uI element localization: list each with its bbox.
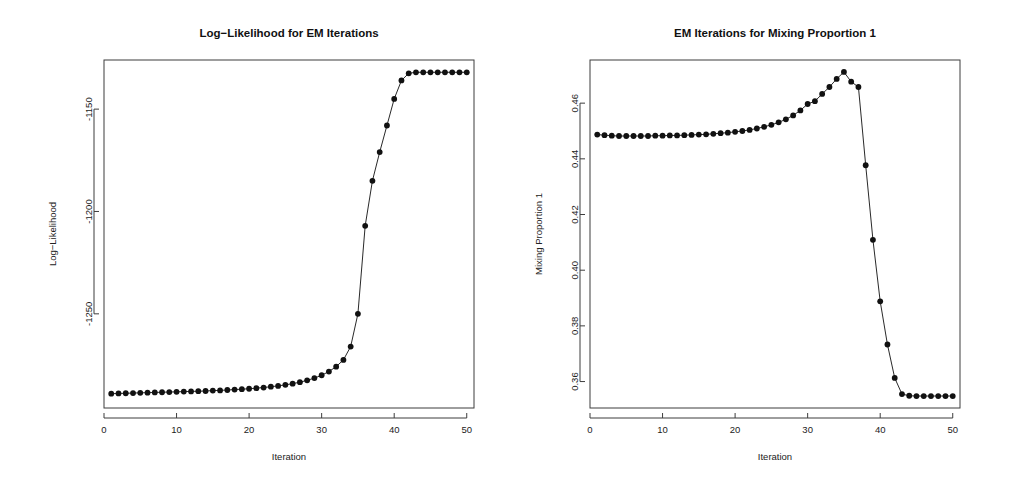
x-tick-label: 40 (389, 424, 400, 435)
y-tick-label: -1150 (83, 97, 94, 121)
data-point (362, 223, 368, 229)
y-tick-label: 0.36 (569, 372, 580, 391)
data-point (689, 132, 695, 138)
x-tick-label: 50 (947, 424, 958, 435)
series-line (111, 72, 467, 393)
data-point (645, 133, 651, 139)
data-point (428, 69, 434, 75)
x-tick-label: 40 (875, 424, 886, 435)
data-point (297, 379, 303, 385)
data-point (108, 391, 114, 397)
data-point (123, 390, 129, 396)
data-point (667, 133, 673, 139)
data-point (739, 128, 745, 134)
chart-panel-log-likelihood: Log−Likelihood for EM Iterations01020304… (0, 0, 506, 484)
plot-title: Log−Likelihood for EM Iterations (199, 27, 378, 39)
data-point (435, 69, 441, 75)
data-point (812, 98, 818, 104)
data-point (681, 132, 687, 138)
data-point (217, 388, 223, 394)
data-point (399, 78, 405, 84)
data-point (195, 388, 201, 394)
data-point (870, 237, 876, 243)
series-line (597, 72, 953, 396)
data-point (718, 130, 724, 136)
data-point (638, 133, 644, 139)
data-point (137, 390, 143, 396)
data-point (166, 389, 172, 395)
data-point (696, 132, 702, 138)
data-point (370, 178, 376, 184)
data-point (413, 69, 419, 75)
data-point (725, 130, 731, 136)
y-tick-label: 0.40 (569, 261, 580, 280)
data-point (304, 377, 310, 383)
data-point (145, 390, 151, 396)
data-point (333, 364, 339, 370)
data-point (406, 70, 412, 76)
data-point (754, 126, 760, 132)
data-point (594, 132, 600, 138)
x-tick-label: 20 (244, 424, 255, 435)
x-tick-label: 30 (316, 424, 327, 435)
data-point (935, 393, 941, 399)
y-tick-label: 0.46 (569, 94, 580, 113)
x-tick-label: 10 (657, 424, 668, 435)
data-point (921, 393, 927, 399)
data-point (906, 393, 912, 399)
data-point (311, 375, 317, 381)
data-point (863, 162, 869, 168)
data-point (188, 389, 194, 395)
data-point (631, 133, 637, 139)
data-point (768, 122, 774, 128)
data-point (239, 386, 245, 392)
data-point (210, 388, 216, 394)
data-point (856, 84, 862, 90)
x-tick-label: 10 (171, 424, 182, 435)
data-point (159, 389, 165, 395)
data-point (928, 393, 934, 399)
data-point (326, 369, 332, 375)
log-likelihood-plot: Log−Likelihood for EM Iterations01020304… (0, 0, 506, 484)
data-point (348, 344, 354, 350)
y-tick-label: 0.38 (569, 317, 580, 336)
data-point (203, 388, 209, 394)
data-point (797, 107, 803, 113)
data-point (819, 91, 825, 97)
data-point (623, 133, 629, 139)
data-point (275, 383, 281, 389)
data-point (652, 133, 658, 139)
y-axis-title: Mixing Proportion 1 (533, 193, 544, 275)
data-point (943, 393, 949, 399)
x-tick-label: 30 (802, 424, 813, 435)
data-point (877, 298, 883, 304)
data-point (174, 389, 180, 395)
x-tick-label: 0 (101, 424, 106, 435)
data-point (457, 69, 463, 75)
data-point (761, 124, 767, 130)
data-point (790, 113, 796, 119)
data-point (442, 69, 448, 75)
data-point (449, 69, 455, 75)
data-point (616, 133, 622, 139)
data-point (246, 386, 252, 392)
data-point (290, 381, 296, 387)
data-point (674, 133, 680, 139)
plot-title: EM Iterations for Mixing Proportion 1 (674, 27, 877, 39)
data-point (341, 357, 347, 363)
data-point (834, 76, 840, 82)
data-point (885, 342, 891, 348)
data-point (384, 123, 390, 129)
y-tick-label: -1200 (83, 199, 94, 223)
data-point (703, 131, 709, 137)
chart-panel-mixing-proportion: EM Iterations for Mixing Proportion 1010… (506, 0, 1012, 484)
data-point (950, 393, 956, 399)
data-point (253, 385, 259, 391)
data-point (377, 149, 383, 155)
data-point (181, 389, 187, 395)
x-tick-label: 20 (730, 424, 741, 435)
x-axis-title: Iteration (758, 451, 792, 462)
data-point (319, 372, 325, 378)
data-point (268, 384, 274, 390)
x-tick-label: 50 (461, 424, 472, 435)
